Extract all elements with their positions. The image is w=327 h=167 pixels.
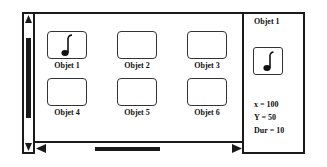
- object-label-2: Objet 2: [107, 61, 167, 70]
- detail-title: Objet 1: [254, 17, 280, 26]
- object-label-5: Objet 5: [107, 108, 167, 117]
- music-note-icon: [254, 48, 282, 74]
- scroll-left-button[interactable]: [35, 143, 47, 154]
- object-label-6: Objet 6: [177, 108, 237, 117]
- object-tile-1[interactable]: [47, 31, 87, 59]
- scroll-down-button[interactable]: [24, 142, 33, 152]
- scroll-up-button[interactable]: [24, 14, 33, 24]
- object-tile-2[interactable]: [117, 31, 157, 59]
- arrow-up-icon: [24, 14, 33, 24]
- object-label-1: Objet 1: [37, 61, 97, 70]
- panel-divider: [242, 12, 244, 154]
- detail-icon-box: [253, 47, 283, 75]
- object-tile-4[interactable]: [47, 78, 87, 106]
- prop-x: x = 100: [254, 100, 279, 109]
- object-tile-6[interactable]: [187, 78, 227, 106]
- prop-y: Y = 50: [254, 113, 276, 122]
- vertical-scrollbar[interactable]: [22, 12, 35, 154]
- prop-dur: Dur = 10: [254, 126, 284, 135]
- horizontal-scroll-thumb[interactable]: [95, 147, 160, 151]
- object-tile-5[interactable]: [117, 78, 157, 106]
- arrow-left-icon: [35, 143, 47, 154]
- horizontal-scrollbar[interactable]: [35, 141, 243, 154]
- object-tile-3[interactable]: [187, 31, 227, 59]
- object-label-4: Objet 4: [37, 108, 97, 117]
- music-note-icon: [48, 32, 86, 58]
- vertical-scroll-thumb[interactable]: [26, 38, 31, 118]
- object-label-3: Objet 3: [177, 61, 237, 70]
- arrow-down-icon: [24, 142, 33, 152]
